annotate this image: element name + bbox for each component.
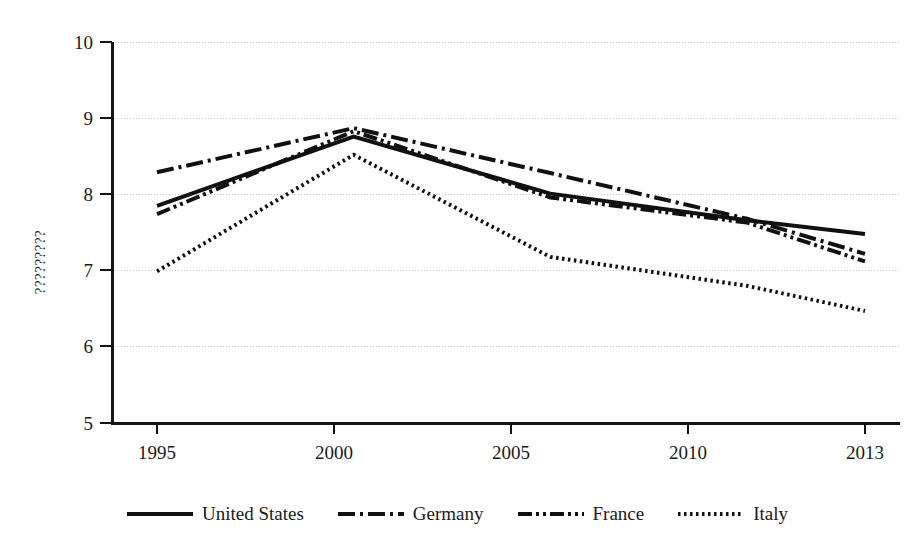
legend-swatch-dash-dot <box>338 507 404 521</box>
x-tick-label: 2005 <box>492 442 530 463</box>
legend-item-united-states[interactable]: United States <box>127 503 304 525</box>
x-tick-label: 2000 <box>315 442 353 463</box>
line-chart: 10 9 8 7 6 5 1995 2000 2005 2010 2013 ??… <box>0 0 915 551</box>
x-tick-marks <box>157 423 865 434</box>
legend-label: United States <box>202 503 304 525</box>
y-tick-label: 8 <box>84 184 94 205</box>
y-tick-marks <box>100 42 112 423</box>
y-axis-title: ????????? <box>32 230 48 294</box>
legend-item-germany[interactable]: Germany <box>338 503 484 525</box>
y-tick-label: 6 <box>84 336 94 357</box>
y-tick-label: 10 <box>74 32 93 53</box>
y-tick-label: 5 <box>84 413 94 434</box>
legend-swatch-dotted <box>678 507 744 521</box>
legend-swatch-dash-dot-dot <box>518 507 584 521</box>
y-tick-label: 7 <box>84 260 94 281</box>
legend-item-france[interactable]: France <box>518 503 645 525</box>
legend-label: Germany <box>413 503 484 525</box>
chart-legend: United States Germany France Italy <box>0 497 915 531</box>
legend-label: France <box>593 503 645 525</box>
chart-canvas: 10 9 8 7 6 5 1995 2000 2005 2010 2013 ??… <box>0 0 915 551</box>
x-tick-label: 1995 <box>138 442 176 463</box>
legend-swatch-solid <box>127 507 193 521</box>
series-line-france <box>157 131 865 261</box>
x-tick-label: 2013 <box>846 442 884 463</box>
legend-item-italy[interactable]: Italy <box>678 503 788 525</box>
series-line-italy <box>157 155 865 311</box>
y-tick-labels: 10 9 8 7 6 5 <box>74 32 93 434</box>
x-tick-label: 2010 <box>669 442 707 463</box>
legend-label: Italy <box>753 503 788 525</box>
y-tick-label: 9 <box>84 108 94 129</box>
gridlines <box>112 42 900 346</box>
series-group <box>157 128 865 311</box>
series-line-germany <box>157 128 865 254</box>
x-tick-labels: 1995 2000 2005 2010 2013 <box>138 442 884 463</box>
